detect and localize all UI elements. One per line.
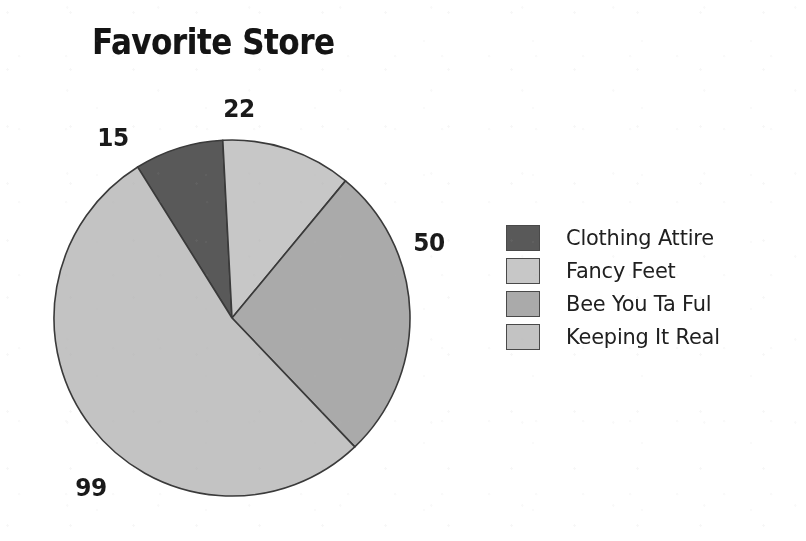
legend-item[interactable]: Fancy Feet — [506, 254, 786, 287]
legend-item[interactable]: Keeping It Real — [506, 320, 786, 353]
chart-legend: Clothing AttireFancy FeetBee You Ta FulK… — [506, 221, 786, 353]
legend-swatch-icon — [506, 225, 540, 251]
legend-item-label: Keeping It Real — [566, 324, 720, 349]
data-label-fancy-feet: 22 — [223, 94, 254, 123]
legend-swatch-icon — [506, 291, 540, 317]
data-label-keeping-it-real: 99 — [75, 473, 106, 502]
legend-item-label: Fancy Feet — [566, 258, 676, 283]
legend-item-label: Bee You Ta Ful — [566, 291, 711, 316]
pie-chart-area — [0, 0, 500, 541]
legend-swatch-icon — [506, 258, 540, 284]
data-label-clothing-attire: 15 — [97, 123, 128, 152]
legend-swatch-icon — [506, 324, 540, 350]
pie-chart-svg — [0, 0, 500, 541]
legend-item[interactable]: Bee You Ta Ful — [506, 287, 786, 320]
legend-item-label: Clothing Attire — [566, 225, 714, 250]
pie-chart-page: Favorite Store 15 22 50 99 Clothing Atti… — [0, 0, 806, 541]
data-label-bee-you-ta-ful: 50 — [413, 228, 444, 257]
legend-item[interactable]: Clothing Attire — [506, 221, 786, 254]
pie-slices — [54, 140, 410, 496]
